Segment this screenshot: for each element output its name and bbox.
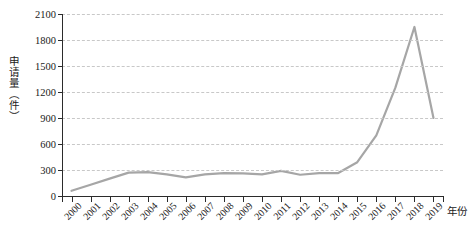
x-axis-title: 年份: [447, 203, 467, 218]
gridline: [62, 170, 443, 171]
x-tick-mark: [91, 197, 92, 202]
y-tick-mark: [58, 170, 63, 171]
x-tick-mark: [148, 197, 149, 202]
x-tick-label: 2014: [328, 200, 350, 222]
y-tick-mark: [58, 40, 63, 41]
y-tick-label: 1800: [14, 35, 56, 46]
x-tick-label: 2011: [271, 200, 293, 222]
x-tick-label: 2012: [290, 200, 312, 222]
y-tick-mark: [58, 92, 63, 93]
y-tick-label: 0: [14, 191, 56, 202]
x-axis-line: [62, 196, 444, 197]
x-tick-label: 2007: [195, 200, 217, 222]
x-tick-label: 2010: [252, 200, 274, 222]
x-tick-label: 2004: [138, 200, 160, 222]
x-tick-label: 2017: [385, 200, 407, 222]
x-tick-mark: [129, 197, 130, 202]
x-tick-label: 2016: [366, 200, 388, 222]
x-tick-label: 2005: [157, 200, 179, 222]
x-tick-label: 2002: [99, 200, 121, 222]
gridline: [62, 40, 443, 41]
y-tick-label: 900: [14, 113, 56, 124]
gridline: [62, 66, 443, 67]
x-tick-mark: [186, 197, 187, 202]
x-tick-mark: [167, 197, 168, 202]
y-tick-mark: [58, 66, 63, 67]
gridline: [62, 14, 443, 15]
x-tick-label: 2018: [404, 200, 426, 222]
x-tick-label: 2013: [309, 200, 331, 222]
x-tick-mark: [62, 197, 63, 202]
x-tick-mark: [72, 197, 73, 202]
x-tick-label: 2019: [423, 200, 445, 222]
x-tick-mark: [110, 197, 111, 202]
x-tick-label: 2003: [119, 200, 141, 222]
y-tick-label: 1500: [14, 61, 56, 72]
gridline: [62, 144, 443, 145]
line-chart: 申请量（件） 03006009001200150018002100 年份 200…: [0, 0, 468, 252]
x-tick-label: 2000: [61, 200, 83, 222]
gridline: [62, 118, 443, 119]
gridline: [62, 92, 443, 93]
y-tick-mark: [58, 118, 63, 119]
x-tick-label: 2006: [176, 200, 198, 222]
y-tick-label: 600: [14, 139, 56, 150]
plot-area: [62, 14, 443, 196]
y-tick-label: 300: [14, 165, 56, 176]
x-tick-mark: [205, 197, 206, 202]
x-tick-label: 2008: [214, 200, 236, 222]
data-series-line: [62, 14, 443, 196]
y-axis-tick-labels: 03006009001200150018002100: [10, 0, 56, 252]
y-tick-mark: [58, 144, 63, 145]
x-tick-label: 2001: [80, 200, 102, 222]
y-tick-label: 2100: [14, 9, 56, 20]
y-tick-label: 1200: [14, 87, 56, 98]
x-tick-label: 2009: [233, 200, 255, 222]
x-tick-label: 2015: [347, 200, 369, 222]
x-tick-mark: [443, 197, 444, 202]
y-tick-mark: [58, 14, 63, 15]
